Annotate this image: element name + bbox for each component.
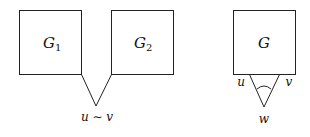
left-figure: G1 G2 u ∼ v [20,11,174,125]
merge-edges [82,75,112,107]
right-figure: G u v w [234,11,296,127]
triangle-edges [250,75,280,108]
merged-vertex-label: u ∼ v [81,110,113,124]
graph-g-label: G [258,34,270,52]
vertex-v-label: v [286,75,293,89]
graph-g1-label: G1 [43,34,61,53]
vertex-u-label: u [237,75,245,89]
graph-g2-label: G2 [134,34,152,53]
angle-arc [257,86,271,89]
diagram-canvas: G1 G2 u ∼ v G u v w [0,0,310,137]
vertex-w-label: w [259,112,270,126]
